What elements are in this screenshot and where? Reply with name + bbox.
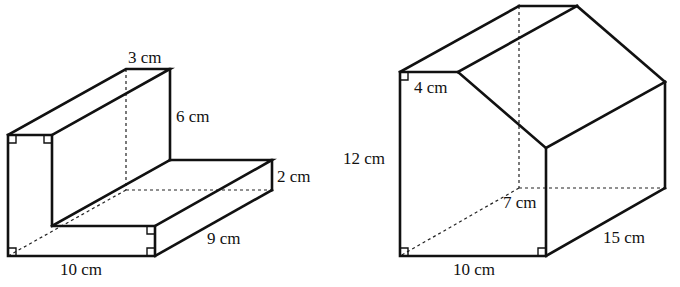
house-prism xyxy=(400,6,665,256)
house-prism-front-face xyxy=(400,72,546,256)
label-step-height: 2 cm xyxy=(277,168,311,185)
label-base-left: 10 cm xyxy=(60,261,102,278)
label-depth-right: 15 cm xyxy=(603,229,645,246)
label-base-right: 10 cm xyxy=(453,261,495,278)
label-upright-height: 6 cm xyxy=(176,108,210,125)
label-left-height: 12 cm xyxy=(343,150,385,167)
label-depth-left: 9 cm xyxy=(207,230,241,247)
house-prism-hidden-edges xyxy=(400,6,665,256)
l-prism-right-angle-marks xyxy=(8,135,155,256)
label-top-flat: 4 cm xyxy=(414,79,448,96)
diagram-canvas: 3 cm 6 cm 2 cm 9 cm 10 cm 4 cm 12 cm 7 c… xyxy=(0,0,680,287)
l-prism-hidden-edges xyxy=(8,69,272,256)
label-top-width: 3 cm xyxy=(128,49,162,66)
label-right-height: 7 cm xyxy=(503,194,537,211)
l-prism-front-face xyxy=(8,135,155,256)
l-prism xyxy=(8,69,272,256)
house-prism-right-angle-marks xyxy=(400,72,546,256)
